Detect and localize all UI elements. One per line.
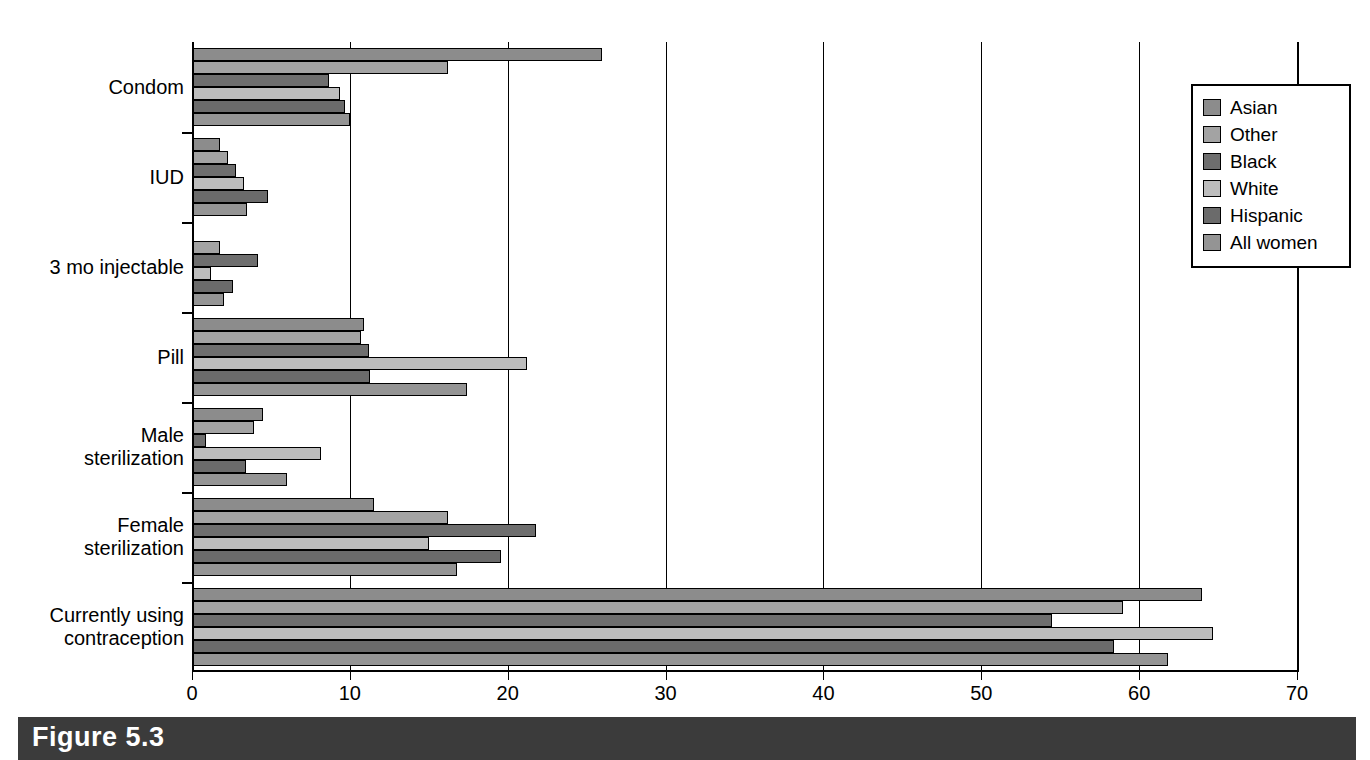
- bar: [192, 563, 457, 576]
- x-tick-label: 70: [1286, 682, 1308, 705]
- legend-item[interactable]: Black: [1203, 148, 1339, 175]
- bar: [192, 460, 246, 473]
- bar: [192, 138, 220, 151]
- legend-item[interactable]: White: [1203, 175, 1339, 202]
- legend-swatch-icon: [1203, 234, 1221, 251]
- bar: [192, 177, 244, 190]
- y-category-label: Male sterilization: [84, 424, 184, 470]
- bar: [192, 241, 220, 254]
- bar: [192, 113, 350, 126]
- bar: [192, 511, 448, 524]
- x-tick-label: 60: [1128, 682, 1150, 705]
- x-tick-mark: [192, 672, 193, 680]
- bar: [192, 48, 602, 61]
- bar: [192, 280, 233, 293]
- chart-legend: AsianOtherBlackWhiteHispanicAll women: [1191, 84, 1351, 268]
- y-category-label: Currently using contraception: [49, 604, 184, 650]
- bar: [192, 203, 247, 216]
- bar: [192, 601, 1123, 614]
- bar: [192, 267, 211, 280]
- bar: [192, 190, 268, 203]
- bar: [192, 87, 340, 100]
- y-category-tick: [182, 492, 193, 494]
- x-tick-mark: [350, 672, 351, 680]
- bar: [192, 331, 361, 344]
- x-axis-line: [192, 670, 1299, 672]
- legend-swatch-icon: [1203, 99, 1221, 116]
- legend-item[interactable]: All women: [1203, 229, 1339, 256]
- legend-item-label: White: [1230, 178, 1279, 200]
- y-category-label: Pill: [157, 346, 184, 369]
- legend-item[interactable]: Other: [1203, 121, 1339, 148]
- bar: [192, 473, 287, 486]
- legend-item[interactable]: Asian: [1203, 94, 1339, 121]
- y-category-label: Condom: [108, 76, 184, 99]
- bar: [192, 74, 329, 87]
- gridline: [666, 42, 667, 672]
- legend-item-label: Hispanic: [1230, 205, 1303, 227]
- y-category-tick: [182, 132, 193, 134]
- bar: [192, 151, 228, 164]
- x-tick-label: 0: [186, 682, 197, 705]
- figure-caption-band: Figure 5.3: [18, 717, 1356, 760]
- chart-plot-area: [192, 42, 1297, 672]
- bar: [192, 100, 345, 113]
- bar: [192, 254, 258, 267]
- legend-swatch-icon: [1203, 207, 1221, 224]
- gridline: [823, 42, 824, 672]
- bar: [192, 653, 1168, 666]
- legend-item[interactable]: Hispanic: [1203, 202, 1339, 229]
- bar: [192, 164, 236, 177]
- y-category-tick: [182, 582, 193, 584]
- bar: [192, 408, 263, 421]
- y-category-label: 3 mo injectable: [49, 256, 184, 279]
- x-tick-mark: [823, 672, 824, 680]
- bar: [192, 357, 527, 370]
- y-category-tick: [182, 312, 193, 314]
- bar: [192, 370, 370, 383]
- legend-item-label: Other: [1230, 124, 1278, 146]
- bar: [192, 61, 448, 74]
- bar: [192, 447, 321, 460]
- x-tick-mark: [981, 672, 982, 680]
- x-tick-mark: [1297, 672, 1298, 680]
- bar: [192, 421, 254, 434]
- legend-item-label: Asian: [1230, 97, 1278, 119]
- bar: [192, 498, 374, 511]
- x-tick-label: 40: [812, 682, 834, 705]
- bar: [192, 640, 1114, 653]
- bar: [192, 524, 536, 537]
- x-tick-mark: [666, 672, 667, 680]
- y-category-label: Female sterilization: [84, 514, 184, 560]
- x-tick-mark: [508, 672, 509, 680]
- x-tick-label: 10: [339, 682, 361, 705]
- x-tick-label: 50: [970, 682, 992, 705]
- y-category-label: IUD: [150, 166, 184, 189]
- bar: [192, 537, 429, 550]
- legend-item-label: Black: [1230, 151, 1276, 173]
- bar: [192, 614, 1052, 627]
- y-category-tick: [182, 402, 193, 404]
- bar: [192, 550, 501, 563]
- figure-container: 010203040506070 CondomIUD3 mo injectable…: [0, 0, 1370, 760]
- legend-swatch-icon: [1203, 126, 1221, 143]
- gridline: [1139, 42, 1140, 672]
- bar: [192, 588, 1202, 601]
- y-axis-line: [192, 42, 194, 672]
- x-tick-mark: [1139, 672, 1140, 680]
- gridline: [981, 42, 982, 672]
- bar: [192, 434, 206, 447]
- bar: [192, 627, 1213, 640]
- legend-item-label: All women: [1230, 232, 1318, 254]
- x-tick-label: 30: [654, 682, 676, 705]
- bar: [192, 383, 467, 396]
- bar: [192, 344, 369, 357]
- x-tick-label: 20: [497, 682, 519, 705]
- legend-swatch-icon: [1203, 153, 1221, 170]
- legend-swatch-icon: [1203, 180, 1221, 197]
- figure-caption-text: Figure 5.3: [32, 722, 165, 753]
- bar: [192, 318, 364, 331]
- y-category-tick: [182, 222, 193, 224]
- bar: [192, 293, 224, 306]
